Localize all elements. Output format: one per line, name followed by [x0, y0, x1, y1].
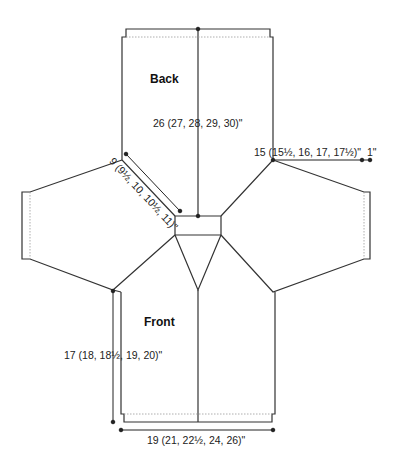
width-measurement: 19 (21, 22½, 24, 26)"	[147, 434, 245, 446]
v-neck-outline	[175, 235, 221, 290]
cuff-measurement: 1"	[367, 146, 377, 158]
length-measurement: 26 (27, 28, 29, 30)"	[153, 117, 243, 129]
neck-outline	[175, 216, 221, 235]
back-label: Back	[150, 72, 179, 86]
front-label: Front	[144, 315, 175, 329]
sleeve-width-measurement: 15 (15½, 16, 17, 17½)"	[254, 146, 361, 158]
front-length-measurement: 17 (18, 18½, 19, 20)"	[64, 349, 162, 361]
right-sleeve-outline	[221, 160, 370, 292]
left-sleeve-outline	[22, 160, 175, 290]
schematic	[0, 0, 399, 470]
